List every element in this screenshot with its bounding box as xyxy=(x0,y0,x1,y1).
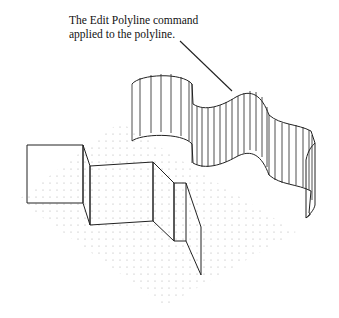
callout-line-1: The Edit Polyline command xyxy=(69,13,198,27)
dot-grid-plane xyxy=(0,100,339,318)
callout-label: The Edit Polyline command applied to the… xyxy=(69,13,198,41)
polyline-figure: The Edit Polyline command applied to the… xyxy=(0,0,339,318)
callout-line-2: applied to the polyline. xyxy=(69,27,198,41)
drawing-canvas xyxy=(0,0,339,318)
callout-leader xyxy=(180,41,232,91)
